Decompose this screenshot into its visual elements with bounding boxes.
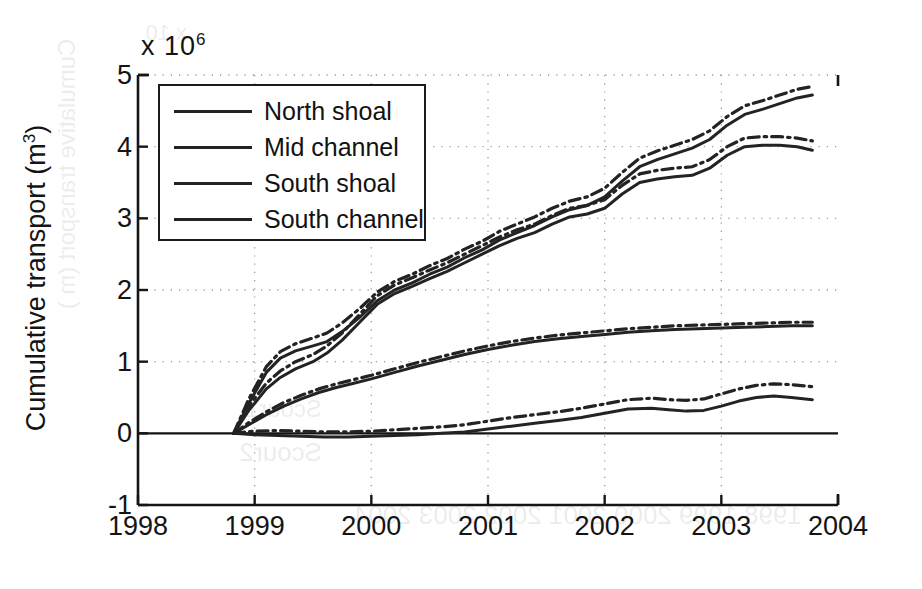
legend-item: Mid channel — [160, 128, 424, 167]
chart-figure: x 106 Cumulative transport (m3) -1012345… — [0, 0, 922, 589]
legend-line-sample — [174, 182, 252, 185]
legend-line-sample — [174, 110, 252, 113]
legend-line-sample — [174, 146, 252, 149]
legend-line-sample — [174, 218, 252, 221]
legend-item-label: South channel — [264, 207, 424, 232]
legend-item: South shoal — [160, 164, 424, 203]
plot-area — [0, 0, 922, 589]
legend-item-label: South shoal — [264, 171, 396, 196]
chart-legend: North shoalMid channelSouth shoalSouth c… — [158, 84, 426, 241]
legend-item: South channel — [160, 200, 424, 239]
legend-item: North shoal — [160, 92, 424, 131]
legend-item-label: Mid channel — [264, 135, 399, 160]
legend-item-label: North shoal — [264, 99, 392, 124]
